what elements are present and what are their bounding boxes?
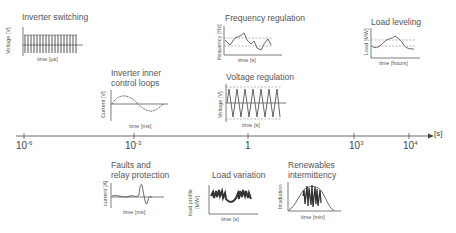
- tick-1e-3: 10-3: [125, 140, 141, 151]
- y-axis-label: current [A]: [102, 181, 108, 206]
- tick-1: 1: [245, 140, 251, 151]
- x-axis-label: time [s]: [238, 57, 256, 63]
- panel-title-line1: Renewables: [288, 160, 335, 170]
- y-axis-label-line1: load profile: [187, 189, 193, 216]
- panel-title: Voltage regulation: [226, 72, 294, 82]
- panel-title: Load leveling: [371, 17, 421, 27]
- irradiation-waveform: [0, 0, 80, 40]
- panel-title: Frequency regulation: [225, 13, 305, 23]
- tick-1e4: 104: [403, 140, 417, 151]
- x-axis-label: time [s]: [221, 216, 239, 222]
- panel-title-line1: Faults and: [111, 160, 151, 170]
- panel-title: Load variation: [212, 170, 265, 180]
- y-axis-label: Load [MW]: [363, 28, 369, 55]
- panel-title-line1: Inverter inner: [111, 68, 161, 78]
- panel-title-line2: relay protection: [111, 170, 169, 180]
- panel-title-line2: intermittency: [288, 170, 336, 180]
- x-axis-label: time [hours]: [379, 60, 408, 66]
- tick-1e3: 103: [349, 140, 363, 151]
- x-axis-label: time [ms]: [123, 209, 145, 215]
- x-axis-label: time [min]: [301, 214, 325, 220]
- y-axis-label: frequency [Hz]: [216, 25, 222, 60]
- y-axis-label-line2: [MW]: [194, 196, 200, 209]
- axis-unit: [s]: [434, 129, 442, 138]
- tick-1e-6: 10-6: [16, 140, 32, 151]
- x-axis-label: time [ms]: [129, 123, 151, 129]
- y-axis-label: Voltage [V]: [217, 91, 223, 118]
- y-axis-label: Current [V]: [100, 91, 106, 118]
- panel-title-line2: control loops: [111, 78, 159, 88]
- x-axis-label: time [s]: [242, 122, 260, 128]
- x-axis-label: time [µs]: [37, 56, 58, 62]
- y-axis-label: Irradiation: [277, 185, 283, 209]
